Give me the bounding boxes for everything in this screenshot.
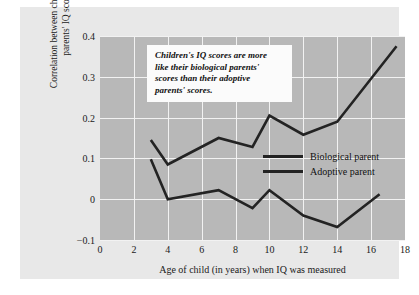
x-tick-label: 2 [131,244,136,255]
x-tick-label: 12 [298,244,308,255]
annotation-callout: Children's IQ scores are morelike their … [147,45,292,102]
x-tick-label: 0 [98,244,103,255]
legend-item-biological-parent: Biological parent [263,149,379,164]
chart-panel: Correlation between children's and paren… [20,7,399,279]
y-tick-label: 0 [90,194,95,205]
legend-swatch-icon [263,155,303,158]
plot-area: −0.100.10.20.30.4 024681012141618 Childr… [100,36,405,240]
figure-canvas: Correlation between children's and paren… [0,0,419,295]
chart-legend: Biological parent Adoptive parent [263,149,379,179]
y-tick-label: −0.1 [77,235,95,246]
y-tick-label: 0.1 [83,153,96,164]
x-tick-label: 6 [199,244,204,255]
legend-swatch-icon [263,170,303,173]
x-tick-label: 10 [264,244,274,255]
x-tick-label: 8 [233,244,238,255]
x-tick-label: 16 [366,244,376,255]
y-axis-title-container: Correlation between children's and paren… [54,47,78,237]
annotation-line: scores than their adoptive [155,73,285,85]
x-tick-label: 4 [165,244,170,255]
gridline-horizontal [100,240,405,241]
annotation-line: like their biological parents' [155,62,285,74]
legend-label: Adoptive parent [310,166,375,177]
x-tick-label: 14 [332,244,342,255]
legend-item-adoptive-parent: Adoptive parent [263,164,379,179]
y-tick-label: 0.2 [83,112,96,123]
legend-label: Biological parent [310,151,379,162]
y-axis-title: Correlation between children's and paren… [48,0,72,102]
y-tick-label: 0.3 [83,71,96,82]
annotation-line: Children's IQ scores are more [155,50,285,62]
annotation-line: parents' scores. [155,85,285,97]
x-tick-label: 18 [400,244,410,255]
y-tick-label: 0.4 [83,31,96,42]
x-axis-title: Age of child (in years) when IQ was meas… [100,264,405,275]
